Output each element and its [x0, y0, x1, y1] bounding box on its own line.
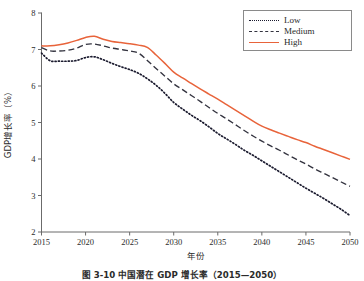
legend-item-high: High	[249, 36, 345, 47]
y-axis-title: GDP增长率（%）	[3, 87, 13, 158]
x-axis-title: 年份	[187, 251, 205, 261]
y-tick-label: 7	[31, 45, 35, 55]
series-layer	[42, 36, 351, 215]
y-tick-label: 6	[31, 81, 35, 91]
x-tick-label: 2025	[121, 237, 138, 247]
legend-label: High	[284, 37, 302, 47]
series-line-low	[42, 53, 351, 215]
x-tick-label: 2020	[77, 237, 94, 247]
y-tick-label: 5	[31, 118, 35, 128]
legend-label: Medium	[284, 26, 315, 36]
y-tick-label: 3	[31, 191, 35, 201]
legend-swatch-line-icon	[249, 26, 279, 36]
legend-item-medium: Medium	[249, 25, 345, 36]
x-tick-label: 2035	[209, 237, 226, 247]
series-line-medium	[42, 44, 351, 187]
y-tick-label: 8	[31, 8, 35, 18]
x-tick-label: 2015	[33, 237, 50, 247]
x-tick-label: 2030	[165, 237, 182, 247]
figure-container: 234567820152020202520302035204020452050年…	[0, 0, 364, 281]
figure-caption: 图 3-10 中国潜在 GDP 增长率（2015—2050）	[0, 270, 364, 281]
x-tick-label: 2045	[297, 237, 314, 247]
chart-legend: Low Medium High	[243, 10, 352, 51]
x-tick-label: 2040	[253, 237, 270, 247]
legend-swatch-line-icon	[249, 15, 279, 25]
legend-item-low: Low	[249, 14, 345, 25]
legend-label: Low	[284, 15, 301, 25]
y-tick-label: 4	[31, 154, 36, 164]
y-tick-label: 2	[31, 227, 35, 237]
x-tick-label: 2050	[342, 237, 359, 247]
legend-swatch-line-icon	[249, 37, 279, 47]
series-line-high	[42, 36, 351, 159]
